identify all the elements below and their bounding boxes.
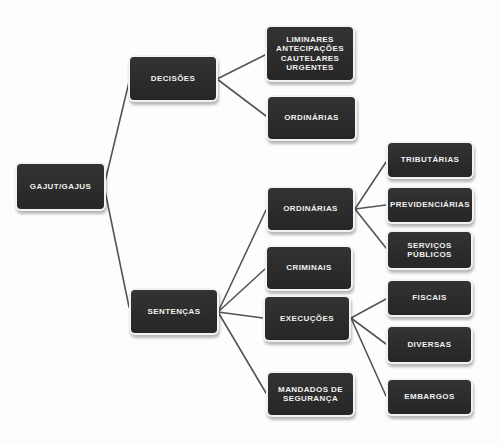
connector-sentencas_ordinarias-servicos_publicos — [355, 209, 386, 248]
tree-diagram: GAJUT/GAJUS DECISÕES LIMINARES ANTECIPAÇ… — [0, 0, 501, 445]
connector-lines — [0, 0, 501, 445]
node-tributarias: TRIBUTÁRIAS — [388, 143, 472, 177]
node-diversas: DIVERSAS — [388, 327, 471, 362]
connector-root-sentencas — [104, 186, 129, 307]
node-decisoes-ordinarias: ORDINÁRIAS — [268, 97, 355, 139]
connector-root-decisoes — [104, 82, 129, 186]
node-root-gajut-gajus: GAJUT/GAJUS — [17, 164, 104, 209]
connector-sentencas_ordinarias-previdenciarias — [355, 205, 386, 209]
node-servicos-publicos: SERVIÇOS PÚBLICOS — [388, 232, 471, 268]
connector-sentencas-execucoes — [218, 312, 263, 318]
node-decisoes-urgentes: LIMINARES ANTECIPAÇÕES CAUTELARES URGENT… — [267, 27, 353, 80]
connector-sentencas-criminais — [218, 269, 265, 312]
node-mandados-de-seguranca: MANDADOS DE SEGURANÇA — [268, 373, 353, 415]
node-previdenciarias: PREVIDENCIÁRIAS — [388, 188, 472, 222]
connector-sentencas_ordinarias-tributarias — [355, 162, 386, 209]
node-fiscais: FISCAIS — [388, 281, 471, 315]
node-sentencas: SENTENÇAS — [131, 290, 217, 333]
node-sentencas-ordinarias: ORDINÁRIAS — [268, 188, 353, 230]
connector-execucoes-embargos — [351, 318, 386, 396]
connector-sentencas-sentencas_ordinarias — [218, 210, 266, 312]
node-embargos: EMBARGOS — [388, 380, 471, 414]
connector-decisoes-decisoes_urgentes — [217, 55, 265, 79]
node-criminais: CRIMINAIS — [267, 247, 351, 289]
connector-decisoes-decisoes_ordinarias — [217, 79, 266, 116]
connector-execucoes-fiscais — [351, 299, 386, 318]
node-execucoes: EXECUÇÕES — [265, 297, 349, 340]
node-decisoes: DECISÕES — [130, 57, 216, 100]
connector-sentencas-mandados — [218, 312, 266, 393]
